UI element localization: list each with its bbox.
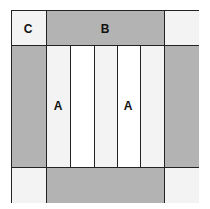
label-strip-left: A — [54, 99, 63, 113]
strip-5 — [140, 45, 164, 167]
corner-bottom-left — [12, 167, 46, 203]
strip-divider-2 — [94, 45, 95, 167]
strip-2 — [70, 45, 94, 167]
side-right — [164, 45, 199, 167]
quilt-block: C B A A — [11, 10, 199, 203]
side-bottom — [46, 167, 164, 203]
label-side: B — [101, 22, 110, 36]
divider-bottom — [12, 167, 199, 168]
strip-divider-4 — [140, 45, 141, 167]
corner-top-right — [164, 11, 199, 45]
label-strip-right: A — [124, 99, 133, 113]
divider-left — [46, 11, 47, 203]
divider-top — [12, 45, 199, 46]
divider-right — [164, 11, 165, 203]
strip-3 — [94, 45, 117, 167]
strip-divider-3 — [117, 45, 118, 167]
side-left — [12, 45, 46, 167]
corner-bottom-right — [164, 167, 199, 203]
label-corner: C — [24, 22, 33, 36]
strip-divider-1 — [70, 45, 71, 167]
